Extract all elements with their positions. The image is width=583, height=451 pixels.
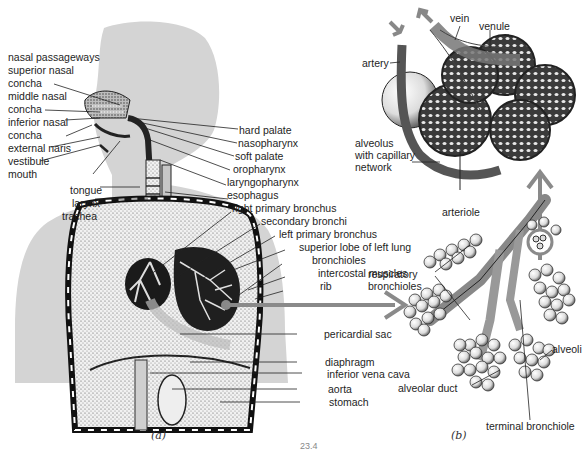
label-oropharynx: oropharynx — [233, 163, 286, 175]
label-bronchioles: bronchioles — [312, 254, 366, 266]
label-trachea: trachea — [62, 210, 97, 222]
label-hard-palate: hard palate — [239, 124, 292, 136]
label-arteriole: arteriole — [442, 206, 480, 218]
label-diaphragm: diaphragm — [325, 356, 375, 368]
page-number: 23.4 — [300, 440, 318, 451]
label-alveolus-2: with capillary — [355, 149, 415, 161]
label-superior-lobe-left-lung: superior lobe of left lung — [299, 241, 411, 253]
label-alveolus-1: alveolus — [355, 137, 394, 149]
label-left-primary-bronchus: left primary bronchus — [279, 228, 377, 240]
label-mouth: mouth — [8, 168, 37, 180]
label-nasal-passageways: nasal passageways — [8, 51, 100, 63]
label-vestibule: vestibule — [8, 155, 49, 167]
label-external-naris: external naris — [8, 142, 71, 154]
label-soft-palate: soft palate — [235, 150, 283, 162]
label-pericardial-sac: pericardial sac — [324, 328, 392, 340]
label-right-primary-bronchus: right primary bronchus — [232, 202, 336, 214]
label-venule: venule — [479, 20, 510, 32]
label-middle-concha: concha — [8, 103, 42, 115]
label-middle-nasal: middle nasal — [8, 90, 67, 102]
label-superior-nasal: superior nasal — [8, 64, 74, 76]
label-stomach: stomach — [329, 396, 369, 408]
caption-panel-b: (b) — [451, 429, 467, 442]
capillary-network — [382, 10, 575, 190]
label-nasopharynx: nasopharynx — [238, 137, 298, 149]
label-respiratory-bronchioles-2: bronchioles — [368, 280, 422, 292]
label-vein: vein — [450, 12, 469, 24]
label-alveoli: alveoli — [552, 343, 582, 355]
label-alveolar-duct: alveolar duct — [398, 382, 458, 394]
label-respiratory-bronchioles-1: respiratory — [368, 268, 418, 280]
label-larynx: larynx — [72, 197, 100, 209]
label-inferior-vena-cava: inferior vena cava — [327, 368, 410, 380]
label-superior-concha: concha — [8, 77, 42, 89]
respiratory-diagram: nasal passageways superior nasal concha … — [0, 0, 583, 451]
label-esophagus: esophagus — [227, 189, 278, 201]
label-alveolus-3: network — [355, 161, 392, 173]
label-secondary-bronchi: secondary bronchi — [261, 215, 347, 227]
label-terminal-bronchiole: terminal bronchiole — [486, 420, 575, 432]
bronchiole-tree — [404, 200, 575, 391]
caption-panel-a: (a) — [151, 429, 166, 442]
label-rib: rib — [320, 280, 332, 292]
label-aorta: aorta — [328, 383, 352, 395]
label-inferior-concha: concha — [8, 129, 42, 141]
label-inferior-nasal: inferior nasal — [8, 116, 68, 128]
label-artery: artery — [362, 57, 389, 69]
thorax — [68, 198, 260, 430]
label-tongue: tongue — [70, 184, 102, 196]
label-laryngopharynx: laryngopharynx — [227, 176, 299, 188]
